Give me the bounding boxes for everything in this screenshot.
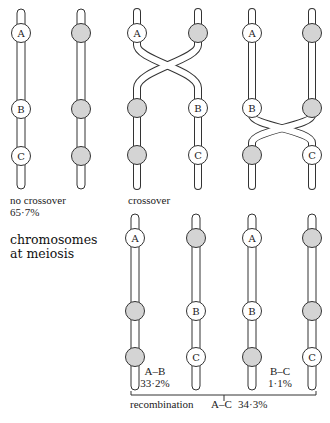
- bc-label: B–C: [270, 365, 290, 377]
- shaded-bead: [72, 147, 91, 166]
- shaded-bead: [303, 24, 322, 43]
- gene-label-a: A: [130, 233, 139, 244]
- shaded-bead: [303, 229, 322, 248]
- chromosome-rod-crossing: [137, 12, 198, 186]
- ab-percent: 33·2%: [140, 377, 169, 389]
- gene-label-a: A: [247, 233, 256, 244]
- no-crossover-percent: 65·7%: [10, 206, 39, 218]
- gene-label-a: A: [247, 28, 256, 39]
- gene-label-c: C: [308, 150, 316, 161]
- chromosome-rod-crossing: [252, 12, 312, 186]
- shaded-bead: [128, 146, 147, 165]
- chromosome-abc: A B C: [12, 9, 31, 189]
- shaded-bead: [303, 302, 322, 321]
- shaded-bead: [303, 99, 322, 118]
- bc-percent: 1·1%: [268, 377, 292, 389]
- chromosome-rod-crossing: [137, 12, 198, 186]
- shaded-bead: [189, 24, 208, 43]
- meiosis-diagram: A B C no crossover 65·7% A B C crosso: [0, 0, 330, 423]
- shaded-bead: [243, 348, 262, 367]
- chromosome-shaded: [72, 9, 91, 189]
- gene-label-c: C: [17, 151, 25, 162]
- pair-crossover-bc: A B C: [243, 12, 322, 186]
- crossover-label: crossover: [128, 194, 170, 206]
- gene-label-a: A: [132, 28, 141, 39]
- bottom-chromosome-3: A B: [243, 214, 262, 390]
- gene-label-c: C: [194, 150, 202, 161]
- diagram-title-line1: chromosomes: [10, 232, 98, 247]
- chromosome-rod-crossing: [252, 12, 312, 186]
- gene-label-a: A: [16, 28, 25, 39]
- ab-label: A–B: [145, 365, 166, 377]
- ac-percent: 34·3%: [238, 398, 267, 410]
- pair-crossover-ab: A B C crossover: [128, 12, 208, 206]
- diagram-title-line2: at meiosis: [10, 246, 74, 261]
- bottom-chromosome-4: C: [303, 214, 322, 390]
- gene-label-b: B: [17, 104, 24, 115]
- gene-label-c: C: [192, 352, 200, 363]
- shaded-bead: [72, 100, 91, 119]
- gene-label-b: B: [248, 103, 255, 114]
- shaded-bead: [243, 146, 262, 165]
- shaded-bead: [126, 302, 145, 321]
- shaded-bead: [126, 348, 145, 367]
- bottom-chromosome-1: A: [126, 214, 145, 390]
- gene-label-b: B: [194, 103, 201, 114]
- shaded-bead: [128, 99, 147, 118]
- recombination-bracket: [131, 391, 316, 395]
- no-crossover-label: no crossover: [10, 194, 66, 206]
- gene-label-b: B: [192, 306, 199, 317]
- bottom-chromosome-2: B C: [187, 214, 206, 390]
- gene-label-b: B: [248, 306, 255, 317]
- recombination-label: recombination: [130, 398, 194, 410]
- shaded-bead: [72, 24, 91, 43]
- shaded-bead: [187, 229, 206, 248]
- gene-label-c: C: [308, 352, 316, 363]
- ac-label: A–C: [211, 398, 232, 410]
- pair-no-crossover: A B C no crossover 65·7%: [10, 9, 91, 218]
